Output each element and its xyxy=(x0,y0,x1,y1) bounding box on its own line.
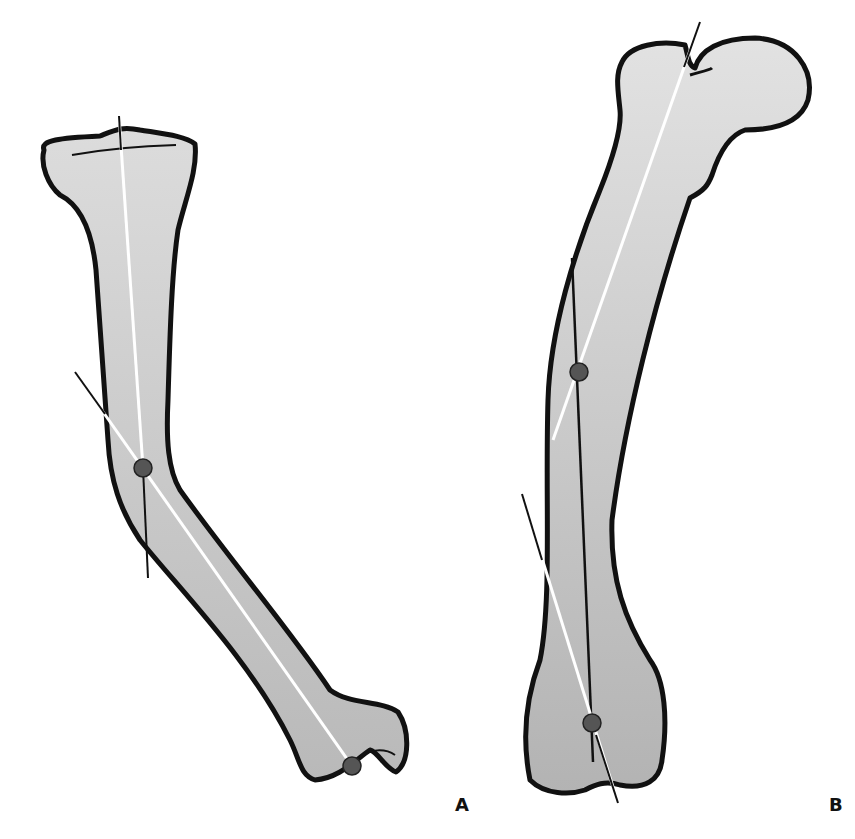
bone-a xyxy=(43,116,407,780)
bone-a-distal-axis xyxy=(75,372,352,766)
bone-a-outline xyxy=(43,128,407,780)
bone-a-distal-dot xyxy=(343,757,361,775)
bone-diagram xyxy=(0,0,855,839)
bone-b-outline xyxy=(526,38,810,793)
bone-b-distal-dot xyxy=(583,714,601,732)
panel-label-b: B xyxy=(829,794,843,815)
bone-b xyxy=(522,22,809,803)
bone-a-center-of-rotation-dot xyxy=(134,459,152,477)
bone-b-center-of-rotation-dot xyxy=(570,363,588,381)
panel-label-a: A xyxy=(455,794,469,815)
